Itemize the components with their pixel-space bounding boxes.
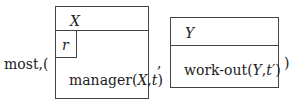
separator-comma: , [157, 56, 161, 70]
referent-y: Y [185, 26, 194, 40]
most-prefix: most,( [4, 57, 48, 71]
drs-box-2-divider [170, 45, 279, 46]
condition-manager: manager(X,t) [69, 73, 163, 87]
referent-x: X [70, 14, 80, 28]
closing-paren: ) [284, 56, 289, 70]
inner-r-label: r [62, 38, 69, 52]
condition-work-out: work-out(Y,t′) [184, 63, 281, 77]
